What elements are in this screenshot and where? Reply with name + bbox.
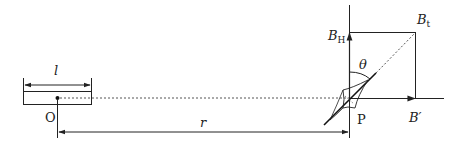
point-label: P xyxy=(357,113,366,126)
resultant-dotted-line xyxy=(376,33,415,73)
origin-dot xyxy=(56,96,60,100)
bh-label-sub: H xyxy=(338,35,346,45)
bt-label-sub: t xyxy=(427,19,431,29)
bh-label: BH xyxy=(328,29,345,45)
bprime-label: B′ xyxy=(409,111,422,124)
length-label: l xyxy=(54,64,58,77)
diagram-canvas xyxy=(0,0,465,150)
bh-label-main: B xyxy=(328,28,338,43)
distance-label: r xyxy=(200,116,206,129)
angle-label: θ xyxy=(359,58,367,71)
bt-label: Bt xyxy=(417,13,430,29)
origin-label: O xyxy=(45,111,56,124)
bt-label-main: B xyxy=(417,12,427,27)
theta-arc xyxy=(350,72,371,79)
